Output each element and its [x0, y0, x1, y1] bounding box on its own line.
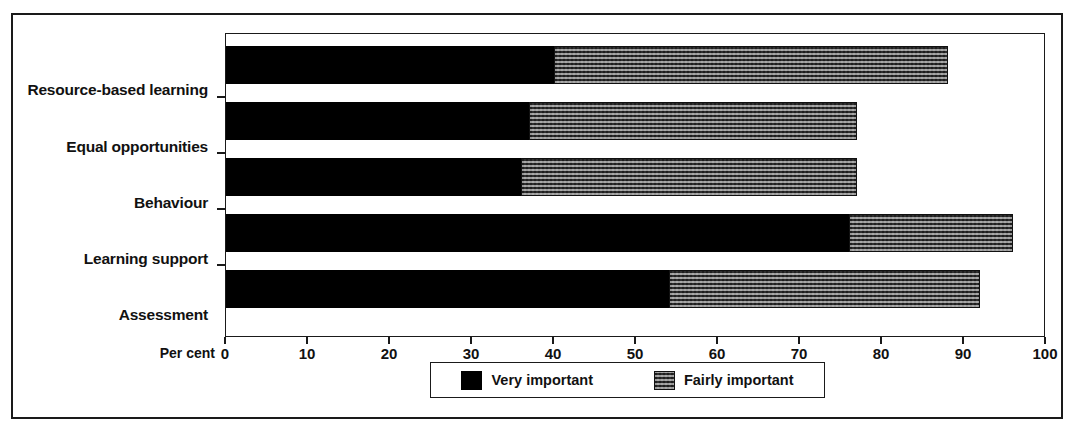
checkered-grey-swatch-icon	[654, 371, 675, 390]
solid-black-swatch-icon	[461, 371, 482, 390]
bar-segment-fairly-important	[529, 102, 857, 140]
bar-segment-fairly-important	[849, 214, 1013, 252]
category-tick-2	[217, 152, 226, 154]
bar-segment-very-important	[226, 270, 669, 308]
x-axis-tick	[1044, 337, 1046, 344]
x-axis-tick	[306, 337, 308, 344]
category-tick-3	[217, 208, 226, 210]
chart-legend: Very important Fairly important	[430, 362, 825, 398]
x-axis-tick-label: 90	[933, 345, 993, 362]
bar-segment-very-important	[226, 102, 529, 140]
x-axis-tick	[962, 337, 964, 344]
x-axis-tick	[634, 337, 636, 344]
x-axis-tick-label: 80	[851, 345, 911, 362]
bar-segment-fairly-important	[554, 46, 948, 84]
category-axis: Resource-based learning Equal opportunit…	[20, 33, 216, 337]
x-axis-tick-label: 10	[277, 345, 337, 362]
category-tick-4	[217, 264, 226, 266]
x-axis-tick	[388, 337, 390, 344]
x-axis-tick	[716, 337, 718, 344]
legend-label: Very important	[491, 372, 593, 388]
bar-segment-fairly-important	[669, 270, 981, 308]
category-label-3: Learning support	[18, 250, 208, 268]
x-axis-tick	[552, 337, 554, 344]
axis-title: Per cent	[110, 345, 215, 361]
category-label-2: Behaviour	[18, 194, 208, 212]
bar-segment-very-important	[226, 46, 554, 84]
legend-entry-very-important: Very important	[461, 371, 593, 390]
x-axis-tick-label: 100	[1015, 345, 1075, 362]
x-axis-tick	[880, 337, 882, 344]
chart-figure: Resource-based learning Equal opportunit…	[0, 0, 1076, 433]
category-label-1: Equal opportunities	[18, 138, 208, 156]
plot-area	[225, 33, 1045, 337]
x-axis-tick-label: 50	[605, 345, 665, 362]
legend-label: Fairly important	[684, 372, 794, 388]
x-axis-tick-label: 60	[687, 345, 747, 362]
bar-segment-very-important	[226, 214, 849, 252]
x-axis-tick-label: 70	[769, 345, 829, 362]
x-axis-tick	[470, 337, 472, 344]
category-label-0: Resource-based learning	[18, 81, 208, 99]
x-axis-tick-label: 20	[359, 345, 419, 362]
x-axis-tick-label: 40	[523, 345, 583, 362]
bar-segment-very-important	[226, 158, 521, 196]
x-axis-tick-label: 30	[441, 345, 501, 362]
bar-segment-fairly-important	[521, 158, 857, 196]
x-axis-tick	[798, 337, 800, 344]
x-axis-tick	[224, 337, 226, 344]
category-label-4: Assessment	[18, 306, 208, 324]
category-tick-1	[217, 96, 226, 98]
legend-entry-fairly-important: Fairly important	[654, 371, 794, 390]
